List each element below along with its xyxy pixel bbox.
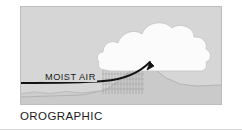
figure-caption: OROGRAPHIC [20,108,220,124]
orographic-diagram-svg: MOIST AIR [20,6,222,105]
moist-air-label: MOIST AIR [45,72,96,82]
orographic-figure: MOIST AIR OROGRAPHIC [0,0,242,134]
diagram-panel: MOIST AIR [20,6,222,105]
bottom-divider [0,129,242,130]
